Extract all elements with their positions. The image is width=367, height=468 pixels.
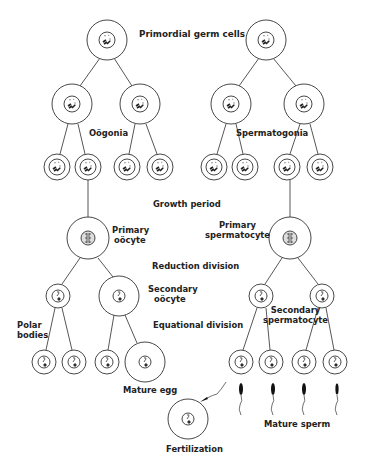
label-equational-division: Equational division: [153, 320, 243, 330]
gametogenesis-diagram: Primordial germ cells Oögonia Spermatogo…: [0, 0, 367, 468]
label-secondary-oocyte: Secondaryoöcyte: [148, 284, 198, 304]
label-growth-period: Growth period: [153, 199, 221, 209]
label-mature-sperm: Mature sperm: [264, 419, 330, 429]
label-line: spermatocyte: [205, 230, 270, 240]
label-line: bodies: [17, 330, 48, 340]
label-spermatogonia: Spermatogonia: [236, 128, 308, 138]
label-line: Secondary: [271, 305, 321, 315]
label-line: spermatocyte: [263, 315, 328, 325]
label-primary-oocyte: Primaryoöcyte: [112, 225, 149, 245]
label-line: Polar: [17, 320, 42, 330]
sperm: [200, 382, 339, 415]
label-line: Primary: [219, 220, 256, 230]
label-oogonia: Oögonia: [89, 128, 128, 138]
label-reduction-division: Reduction division: [152, 261, 239, 271]
label-primary-spermatocyte: Primaryspermatocyte: [205, 220, 270, 240]
label-line: Primary: [112, 225, 149, 235]
label-mature-egg: Mature egg: [123, 385, 177, 395]
label-line: Secondary: [148, 284, 198, 294]
label-polar-bodies: Polarbodies: [17, 320, 48, 340]
label-line: oöcyte: [112, 235, 146, 245]
diagram-graphics: [0, 0, 367, 468]
label-primordial-germ-cells: Primordial germ cells: [139, 29, 245, 39]
cells: [32, 20, 347, 439]
label-secondary-spermatocyte: Secondaryspermatocyte: [263, 305, 328, 325]
label-line: oöcyte: [148, 294, 186, 304]
label-fertilization: Fertilization: [166, 444, 223, 454]
